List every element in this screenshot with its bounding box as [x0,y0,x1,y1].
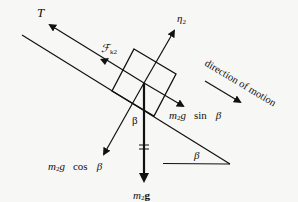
perpendicular-component-arrow [104,83,144,154]
block-angle-label: β [132,114,138,126]
incline-base [163,164,230,165]
motion-direction-label: direction of motion [203,57,279,109]
free-body-diagram: T ℱk2 η2 m2gsinβ m2gcosβ m2g β β directi… [0,0,298,202]
normal-label: η2 [177,12,186,26]
weight-label: m2g [133,189,150,202]
tension-label: T [37,5,45,20]
friction-arrowhead [100,58,109,65]
diagram-svg: T ℱk2 η2 m2gsinβ m2gcosβ m2g β β directi… [0,0,298,202]
tension-arrow [50,25,144,83]
incline-angle-label: β [193,149,200,161]
perpendicular-component-label: m2gcosβ [48,160,103,173]
parallel-component-arrow [144,83,183,106]
friction-label: ℱk2 [101,42,118,56]
parallel-component-label: m2gsinβ [169,109,222,122]
